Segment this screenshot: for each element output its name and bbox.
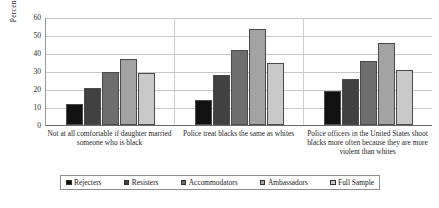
- x-axis-label: Not at all comfortable if daughter marri…: [45, 129, 174, 173]
- bar-group: [174, 18, 303, 125]
- bar-rejecters: [195, 100, 212, 125]
- bar-group: [303, 18, 432, 125]
- legend-item-full-sample[interactable]: Full Sample: [330, 178, 374, 187]
- y-tick-label: 30: [21, 68, 41, 76]
- legend-item-accommodators[interactable]: Accommodators: [181, 178, 238, 187]
- legend-item-rejecters[interactable]: Rejecters: [66, 178, 102, 187]
- bar-full-sample: [138, 73, 155, 125]
- legend-label: Ambassadors: [268, 178, 308, 187]
- y-tick-label: 0: [21, 122, 41, 130]
- bar-resisters: [84, 88, 101, 125]
- y-tick-label: 40: [21, 50, 41, 58]
- legend-swatch-icon: [330, 180, 336, 186]
- legend-label: Accommodators: [189, 178, 238, 187]
- legend-label: Full Sample: [338, 178, 374, 187]
- y-tick-label: 60: [21, 14, 41, 22]
- chart-legend: RejectersResistersAccommodatorsAmbassado…: [60, 175, 380, 190]
- bar-accommodators: [102, 72, 119, 126]
- bar-group: [46, 18, 174, 125]
- bar-rejecters: [324, 91, 341, 125]
- bar-accommodators: [231, 50, 248, 125]
- bar-rejecters: [66, 104, 83, 125]
- legend-item-resisters[interactable]: Resisters: [124, 178, 159, 187]
- legend-label: Rejecters: [74, 178, 102, 187]
- legend-swatch-icon: [66, 180, 72, 186]
- legend-swatch-icon: [181, 180, 187, 186]
- y-axis-label: Percent: [9, 0, 18, 40]
- x-axis-label: Police officers in the United States sho…: [303, 129, 432, 173]
- y-axis-label-container: Percent: [0, 0, 22, 130]
- legend-label: Resisters: [132, 178, 159, 187]
- x-axis-category-labels: Not at all comfortable if daughter marri…: [45, 129, 432, 173]
- bar-ambassadors: [249, 29, 266, 125]
- x-axis-label: Police treat blacks the same as whites: [174, 129, 303, 173]
- bar-full-sample: [267, 63, 284, 125]
- plot-area: [45, 18, 432, 126]
- legend-swatch-icon: [124, 180, 130, 186]
- legend-swatch-icon: [260, 180, 266, 186]
- bar-resisters: [342, 79, 359, 125]
- y-tick-label: 20: [21, 86, 41, 94]
- y-tick-label: 10: [21, 104, 41, 112]
- bar-ambassadors: [378, 43, 395, 125]
- bar-chart-figure: Percent 0102030405060 Not at all comfort…: [0, 0, 439, 208]
- bar-accommodators: [360, 61, 377, 125]
- y-tick-label: 50: [21, 32, 41, 40]
- bar-groups: [46, 18, 432, 125]
- legend-item-ambassadors[interactable]: Ambassadors: [260, 178, 308, 187]
- y-axis-ticks: 0102030405060: [20, 18, 44, 126]
- bar-ambassadors: [120, 59, 137, 125]
- bar-resisters: [213, 75, 230, 125]
- bar-full-sample: [396, 70, 413, 125]
